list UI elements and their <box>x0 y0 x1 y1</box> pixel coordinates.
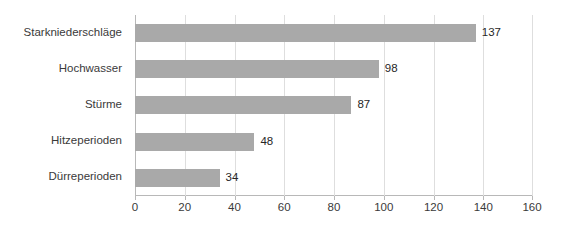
bar-chart: Starkniederschläge Hochwasser Stürme Hit… <box>0 0 569 235</box>
bar-hitzeperioden[interactable] <box>135 133 254 151</box>
category-label-hitzeperioden: Hitzeperioden <box>0 134 122 147</box>
xtick-label-0: 0 <box>132 200 138 214</box>
bar-row: 48 <box>135 124 533 160</box>
plot-area: 137 98 87 48 34 <box>135 15 533 196</box>
value-axis-labels: 0 20 40 60 80 100 120 140 160 <box>135 200 533 218</box>
bar-row: 137 <box>135 15 533 51</box>
bar-row: 98 <box>135 51 533 87</box>
xtick-label-160: 160 <box>522 200 541 214</box>
category-label-duerreperioden: Dürreperioden <box>0 170 122 183</box>
xtick-label-60: 60 <box>278 200 291 214</box>
bar-series: 137 98 87 48 34 <box>135 15 533 196</box>
bar-stuerme[interactable] <box>135 96 351 114</box>
xtick-label-20: 20 <box>178 200 191 214</box>
bar-hochwasser[interactable] <box>135 60 379 78</box>
bar-row: 34 <box>135 160 533 196</box>
bar-value-duerreperioden: 34 <box>226 168 239 186</box>
xtick-label-100: 100 <box>374 200 393 214</box>
bar-duerreperioden[interactable] <box>135 169 220 187</box>
xtick-label-140: 140 <box>474 200 493 214</box>
category-label-hochwasser: Hochwasser <box>0 62 122 75</box>
xtick-label-120: 120 <box>424 200 443 214</box>
bar-value-hitzeperioden: 48 <box>260 132 273 150</box>
category-label-starkniederschlaege: Starkniederschläge <box>0 26 122 39</box>
bar-value-hochwasser: 98 <box>385 59 398 77</box>
category-label-stuerme: Stürme <box>0 98 122 111</box>
xtick-label-40: 40 <box>228 200 241 214</box>
bar-value-stuerme: 87 <box>357 95 370 113</box>
bar-value-starkniederschlaege: 137 <box>482 23 501 41</box>
category-axis-labels: Starkniederschläge Hochwasser Stürme Hit… <box>0 15 128 196</box>
bar-row: 87 <box>135 87 533 123</box>
bar-starkniederschlaege[interactable] <box>135 24 476 42</box>
xtick-label-80: 80 <box>328 200 341 214</box>
